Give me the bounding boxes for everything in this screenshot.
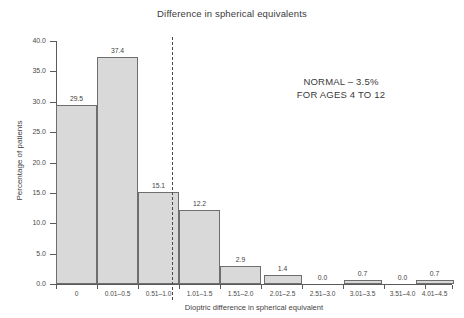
bar [220, 266, 261, 284]
y-axis-tick-label: 0.0 [12, 280, 46, 287]
cutoff-divider-line [172, 37, 173, 300]
bar [97, 57, 138, 284]
bar-chart: Difference in spherical equivalents NORM… [0, 0, 464, 318]
y-axis-tick-label: 15.0 [12, 189, 46, 196]
x-axis-title: Dioptric difference in spherical equival… [56, 303, 452, 312]
y-axis-tick [50, 71, 56, 72]
bar-value-label: 2.9 [221, 256, 261, 263]
x-axis-tick [220, 285, 221, 289]
x-axis-line [56, 284, 452, 285]
y-axis-tick-label: 35.0 [12, 67, 46, 74]
bar-value-label: 1.4 [263, 265, 303, 272]
y-axis-tick-label: 30.0 [12, 98, 46, 105]
x-axis-tick [343, 285, 344, 289]
x-axis-tick [179, 285, 180, 289]
bar [344, 280, 382, 284]
x-axis-tick [425, 285, 426, 289]
bar-value-label: 12.2 [180, 200, 220, 207]
annotation-line-1: NORMAL – 3.5% [256, 75, 426, 88]
x-axis-tick-label: 1.51–2.0 [217, 290, 265, 297]
y-axis-tick-label: 20.0 [12, 159, 46, 166]
x-axis-tick [138, 285, 139, 289]
x-axis-tick [302, 285, 303, 289]
bar-value-label: 0.7 [415, 270, 455, 277]
annotation-line-2: FOR AGES 4 TO 12 [256, 88, 426, 101]
bar [264, 275, 302, 284]
x-axis-tick [56, 285, 57, 289]
bar-value-label: 29.5 [57, 95, 97, 102]
bar-value-label: 0.0 [303, 274, 343, 281]
y-axis-tick-label: 40.0 [12, 37, 46, 44]
x-axis-tick [452, 285, 453, 289]
y-axis-tick-label: 10.0 [12, 219, 46, 226]
bar [56, 105, 97, 284]
bar [416, 280, 454, 284]
normal-range-annotation: NORMAL – 3.5% FOR AGES 4 TO 12 [256, 75, 426, 101]
chart-title: Difference in spherical equivalents [0, 8, 464, 19]
x-axis-tick [384, 285, 385, 289]
y-axis-tick-label: 25.0 [12, 128, 46, 135]
y-axis-tick [50, 102, 56, 103]
bar-value-label: 37.4 [98, 47, 138, 54]
bar-value-label: 0.7 [343, 270, 383, 277]
y-axis-tick [50, 41, 56, 42]
bar [179, 210, 220, 284]
x-axis-tick [261, 285, 262, 289]
x-axis-tick [97, 285, 98, 289]
x-axis-tick-label: 4.01–4.5 [411, 290, 459, 297]
y-axis-tick-label: 5.0 [12, 250, 46, 257]
